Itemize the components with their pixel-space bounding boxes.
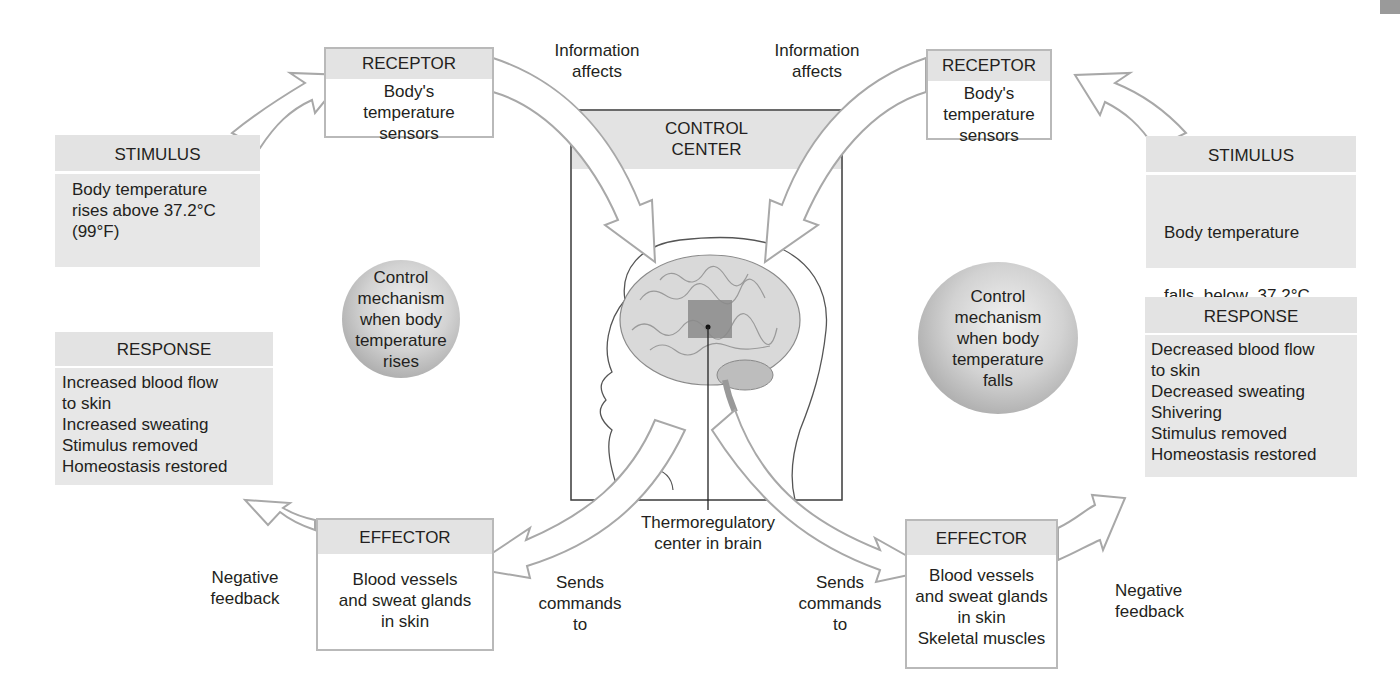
- text-line: to: [790, 614, 890, 635]
- text-line: and sweat glands: [318, 590, 492, 611]
- right-receptor-body: Body's temperature sensors: [928, 81, 1050, 146]
- left-stimulus-title: STIMULUS: [55, 135, 260, 171]
- text-line: temperature: [355, 330, 447, 351]
- text-line: affects: [752, 61, 882, 82]
- right-response-title: RESPONSE: [1145, 297, 1357, 333]
- text-line: commands: [790, 593, 890, 614]
- arrow-effector-to-response-right: [1058, 495, 1125, 560]
- text-line: Homeostasis restored: [62, 456, 273, 477]
- text-line: when body: [355, 309, 447, 330]
- left-stimulus-box: STIMULUS Body temperature rises above 37…: [55, 135, 260, 267]
- right-receptor-title: RECEPTOR: [928, 51, 1050, 81]
- text-line: sensors: [928, 125, 1050, 146]
- text-line: temperature: [928, 104, 1050, 125]
- right-effector-title: EFFECTOR: [907, 521, 1056, 555]
- right-response-body: Decreased blood flow to skin Decreased s…: [1145, 335, 1357, 477]
- text-line: Information: [752, 40, 882, 61]
- text-line: Blood vessels: [907, 565, 1056, 586]
- text-line: in skin: [318, 611, 492, 632]
- text-line: Blood vessels: [318, 569, 492, 590]
- left-receptor-body: Body's temperature sensors: [326, 79, 492, 144]
- text-line: Negative: [200, 567, 290, 588]
- text-line: Body's: [928, 83, 1050, 104]
- left-sends-commands-label: Sends commands to: [530, 572, 630, 635]
- text-line: and sweat glands: [907, 586, 1056, 607]
- text-line: Sends: [530, 572, 630, 593]
- text-line: mechanism: [952, 307, 1044, 328]
- text-line: Skeletal muscles: [907, 628, 1056, 649]
- text-line: in skin: [907, 607, 1056, 628]
- text-line: falls: [952, 370, 1044, 391]
- left-response-title: RESPONSE: [55, 332, 273, 366]
- text-line: commands: [530, 593, 630, 614]
- text-line: center in brain: [628, 533, 788, 554]
- text-line: Body temperature: [1164, 222, 1356, 243]
- text-line: CENTER: [572, 139, 841, 160]
- right-receptor-box: RECEPTOR Body's temperature sensors: [926, 49, 1052, 140]
- text-line: Body's: [326, 81, 492, 102]
- left-negative-feedback-label: Negative feedback: [200, 567, 290, 609]
- text-line: Sends: [790, 572, 890, 593]
- left-mechanism-text: Control mechanism when body temperature …: [355, 267, 447, 372]
- right-effector-box: EFFECTOR Blood vessels and sweat glands …: [905, 519, 1058, 669]
- left-response-box: RESPONSE Increased blood flow to skin In…: [55, 332, 273, 485]
- right-stimulus-box: STIMULUS Body temperature falls below 37…: [1146, 136, 1356, 268]
- left-stimulus-body: Body temperature rises above 37.2°C (99°…: [55, 174, 260, 267]
- text-line: Homeostasis restored: [1151, 444, 1357, 465]
- text-line: when body: [952, 328, 1044, 349]
- right-response-box: RESPONSE Decreased blood flow to skin De…: [1145, 297, 1357, 477]
- text-line: Shivering: [1151, 402, 1357, 423]
- right-effector-body: Blood vessels and sweat glands in skin S…: [907, 555, 1056, 649]
- left-effector-box: EFFECTOR Blood vessels and sweat glands …: [316, 518, 494, 651]
- corner-tab: [1380, 0, 1400, 14]
- text-line: Increased blood flow: [62, 372, 273, 393]
- text-line: sensors: [326, 123, 492, 144]
- arrow-effector-to-response-left: [245, 500, 315, 530]
- text-line: Thermoregulatory: [628, 512, 788, 533]
- left-effector-body: Blood vessels and sweat glands in skin: [318, 554, 492, 632]
- text-line: rises: [355, 351, 447, 372]
- right-information-label: Information affects: [752, 40, 882, 82]
- text-line: (99°F): [72, 221, 260, 242]
- text-line: mechanism: [355, 288, 447, 309]
- text-line: affects: [532, 61, 662, 82]
- text-line: Stimulus removed: [62, 435, 273, 456]
- left-effector-title: EFFECTOR: [318, 520, 492, 554]
- right-sends-commands-label: Sends commands to: [790, 572, 890, 635]
- text-line: feedback: [1115, 601, 1215, 622]
- text-line: temperature: [326, 102, 492, 123]
- control-center-title: CONTROL CENTER: [572, 118, 841, 160]
- left-receptor-box: RECEPTOR Body's temperature sensors: [324, 47, 494, 138]
- text-line: Stimulus removed: [1151, 423, 1357, 444]
- text-line: rises above 37.2°C: [72, 200, 260, 221]
- left-information-label: Information affects: [532, 40, 662, 82]
- text-line: to skin: [62, 393, 273, 414]
- right-mechanism-text: Control mechanism when body temperature …: [952, 286, 1044, 391]
- text-line: temperature: [952, 349, 1044, 370]
- thermoregulatory-caption: Thermoregulatory center in brain: [628, 512, 788, 554]
- text-line: to: [530, 614, 630, 635]
- left-control-mechanism-circle: Control mechanism when body temperature …: [342, 260, 460, 378]
- text-line: CONTROL: [572, 118, 841, 139]
- thermoregulatory-region: [688, 300, 732, 338]
- text-line: Control: [952, 286, 1044, 307]
- right-control-mechanism-circle: Control mechanism when body temperature …: [918, 262, 1078, 414]
- text-line: feedback: [200, 588, 290, 609]
- right-stimulus-title: STIMULUS: [1146, 136, 1356, 172]
- text-line: Decreased sweating: [1151, 381, 1357, 402]
- text-line: Body temperature: [72, 179, 260, 200]
- text-line: Increased sweating: [62, 414, 273, 435]
- text-line: Control: [355, 267, 447, 288]
- text-line: to skin: [1151, 360, 1357, 381]
- right-stimulus-body: Body temperature falls below 37.2°C (99°…: [1146, 175, 1356, 268]
- left-receptor-title: RECEPTOR: [326, 49, 492, 79]
- right-negative-feedback-label: Negative feedback: [1115, 580, 1215, 622]
- left-response-body: Increased blood flow to skin Increased s…: [55, 368, 273, 485]
- text-line: Information: [532, 40, 662, 61]
- text-line: Negative: [1115, 580, 1215, 601]
- text-line: Decreased blood flow: [1151, 339, 1357, 360]
